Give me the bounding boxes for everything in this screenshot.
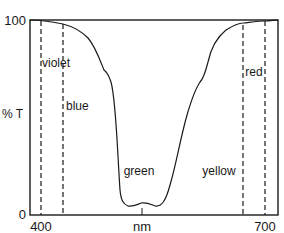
x-tick-400: 400 — [30, 219, 52, 233]
band-label-red: red — [245, 65, 262, 79]
transmission-chart: 100 0 400 700 % T nm violet blue green y… — [0, 0, 284, 233]
y-tick-100: 100 — [4, 13, 26, 28]
band-label-yellow: yellow — [202, 164, 236, 178]
x-axis-label: nm — [133, 219, 151, 233]
transmission-curve — [30, 20, 278, 206]
band-label-green: green — [124, 164, 155, 178]
band-label-violet: violet — [42, 56, 71, 70]
y-axis-label: % T — [2, 107, 24, 121]
x-tick-700: 700 — [254, 219, 276, 233]
band-label-blue: blue — [66, 99, 89, 113]
plot-frame — [30, 20, 278, 215]
y-tick-0: 0 — [19, 207, 26, 222]
